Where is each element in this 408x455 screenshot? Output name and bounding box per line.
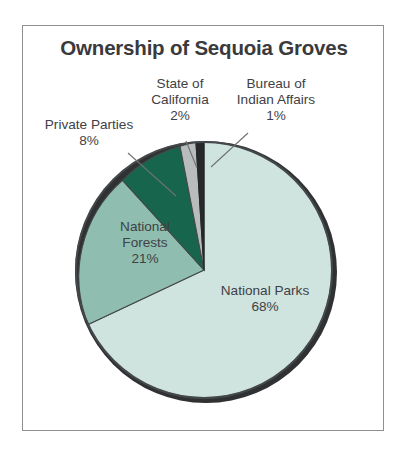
pie-label-bureau-of-indian-affairs-line2: Indian Affairs (237, 92, 315, 107)
chart-figure: Ownership of Sequoia Groves Private Part… (0, 0, 408, 455)
pie-label-national-forests-line2: Forests (122, 235, 167, 250)
pie-label-national-forests-percent: 21% (93, 251, 197, 267)
pie-label-national-parks-percent: 68% (200, 299, 330, 315)
pie-label-state-of-california-line2: California (151, 92, 208, 107)
pie-label-national-forests-line1: National (120, 219, 170, 234)
pie-label-bureau-of-indian-affairs: Bureau of Indian Affairs 1% (214, 76, 338, 123)
pie-label-private-parties-percent: 8% (14, 133, 164, 149)
pie-label-national-parks-text: National Parks (221, 283, 309, 298)
pie-label-national-forests: National Forests 21% (93, 219, 197, 267)
pie-label-private-parties-text: Private Parties (45, 117, 133, 132)
pie-chart (0, 0, 408, 455)
pie-label-bureau-of-indian-affairs-line1: Bureau of (247, 76, 306, 91)
pie-label-state-of-california-line1: State of (157, 76, 204, 91)
pie-label-national-parks: National Parks 68% (200, 283, 330, 315)
pie-label-bureau-of-indian-affairs-percent: 1% (214, 108, 338, 124)
